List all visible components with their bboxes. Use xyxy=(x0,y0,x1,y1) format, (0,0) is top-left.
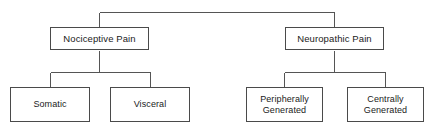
node-centrally-generated: Centrally Generated xyxy=(347,87,424,122)
node-somatic: Somatic xyxy=(10,87,90,122)
node-somatic-label: Somatic xyxy=(31,99,68,110)
node-centrally-generated-label: Centrally Generated xyxy=(362,94,409,115)
node-neuropathic-pain: Neuropathic Pain xyxy=(285,27,384,50)
node-nociceptive-pain-label: Nociceptive Pain xyxy=(61,33,137,44)
node-visceral-label: Visceral xyxy=(132,99,169,110)
node-visceral: Visceral xyxy=(110,87,190,122)
node-neuropathic-pain-label: Neuropathic Pain xyxy=(295,33,373,44)
node-peripherally-generated: Peripherally Generated xyxy=(246,87,323,122)
node-peripherally-generated-label: Peripherally Generated xyxy=(258,94,311,115)
node-nociceptive-pain: Nociceptive Pain xyxy=(50,27,149,50)
pain-classification-diagram: Nociceptive Pain Neuropathic Pain Somati… xyxy=(0,0,433,136)
